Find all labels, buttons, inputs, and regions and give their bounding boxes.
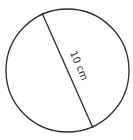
circle-diagram: 10 cm bbox=[0, 0, 133, 140]
diameter-label: 10 cm bbox=[68, 49, 91, 82]
diagram-svg: 10 cm bbox=[0, 0, 133, 140]
